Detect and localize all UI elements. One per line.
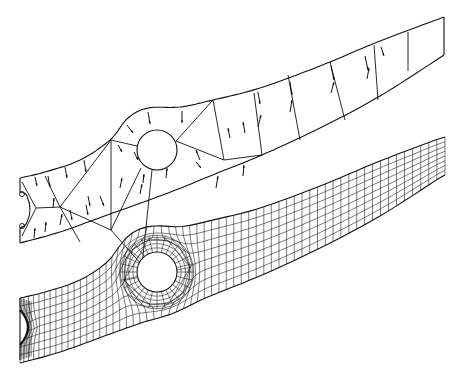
arrow-head-icon — [196, 150, 198, 153]
element-edge — [254, 93, 262, 155]
figure-canvas: Finite element mesh of a tapered link wi… — [0, 0, 464, 378]
top-edge — [20, 17, 444, 178]
hole — [137, 130, 177, 170]
element-edge — [22, 208, 36, 236]
mesh-spoke — [173, 249, 186, 260]
arrow-head-icon — [332, 82, 334, 85]
element-edge — [111, 168, 141, 230]
element-edge — [374, 45, 378, 100]
mesh-line-transverse — [176, 227, 191, 312]
arrow-head-icon — [181, 120, 183, 123]
mesh-line-longitudinal — [20, 166, 445, 347]
element-edge — [111, 140, 137, 146]
element-edge — [213, 100, 224, 160]
arrow-head-icon — [102, 203, 104, 206]
hole — [137, 252, 177, 292]
element-edge — [45, 176, 60, 207]
arrow-head-icon — [136, 157, 138, 160]
element-edge — [60, 207, 111, 230]
element-edge — [60, 140, 111, 207]
element-edge — [288, 75, 300, 140]
mesh-line-longitudinal — [29, 156, 445, 331]
diagram-svg — [0, 0, 464, 378]
mesh-line-transverse — [190, 225, 196, 305]
element-edge — [176, 141, 224, 160]
mesh-spoke — [134, 288, 145, 301]
mesh-line-transverse — [116, 248, 120, 331]
mesh-spoke — [169, 243, 180, 256]
arrow-head-icon — [382, 53, 384, 56]
mesh-spoke — [134, 243, 145, 256]
element-edge — [36, 207, 60, 208]
fine-mesh-panel — [20, 137, 445, 363]
coarse-mesh-panel — [20, 17, 445, 265]
mesh-line-longitudinal — [29, 151, 446, 322]
arrow-head-icon — [259, 115, 261, 118]
